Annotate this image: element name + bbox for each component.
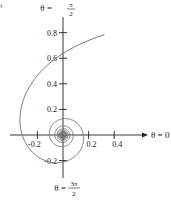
bottom-numerator: 3π xyxy=(70,180,78,188)
corner-mark: , xyxy=(0,0,3,8)
x-tick-label: 0.2 xyxy=(87,140,97,149)
polar-spiral-chart: , -0.20.20.40.80.60.40.2-0.2 θ = π 2 θ =… xyxy=(0,0,171,205)
top-numerator: π xyxy=(69,1,73,9)
bottom-denominator: 2 xyxy=(72,190,76,198)
x-axis-arrow-icon xyxy=(142,133,148,138)
axis-ticks: -0.20.20.40.80.60.40.2-0.2 xyxy=(28,29,122,166)
label-theta-pi-over-2: θ = π 2 xyxy=(40,1,75,18)
x-tick-label: -0.2 xyxy=(28,140,41,149)
x-tick-label: 0.4 xyxy=(112,140,122,149)
label-theta-0: θ = 0 xyxy=(151,130,170,140)
bottom-theta-text: θ = xyxy=(54,183,66,193)
top-denominator: 2 xyxy=(69,10,73,18)
y-tick-label: 0.8 xyxy=(47,29,57,38)
label-theta-3pi-over-2: θ = 3π 2 xyxy=(54,180,80,198)
y-tick-label: 0.2 xyxy=(47,105,57,114)
top-theta-text: θ = xyxy=(40,3,52,13)
y-tick-label: 0.4 xyxy=(47,80,57,89)
